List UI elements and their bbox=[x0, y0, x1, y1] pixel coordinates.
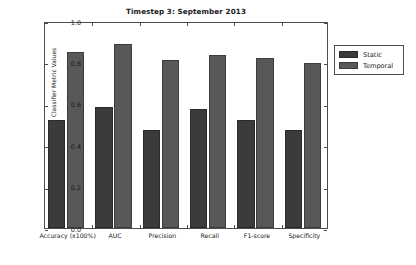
x-axis-tick-label: Recall bbox=[200, 232, 218, 239]
x-axis-tick-mark bbox=[234, 23, 235, 26]
bar-temporal-5 bbox=[304, 63, 322, 228]
plot-inner bbox=[45, 23, 327, 228]
x-axis-tick-mark bbox=[187, 23, 188, 26]
y-axis-tick-mark bbox=[324, 147, 327, 148]
legend-item-temporal[interactable]: Temporal bbox=[339, 60, 399, 71]
x-axis-tick-mark bbox=[187, 225, 188, 228]
bar-static-3 bbox=[190, 109, 208, 228]
y-axis-tick: 0.0 bbox=[45, 230, 89, 231]
y-axis-tick-mark bbox=[324, 230, 327, 231]
legend-label-static: Static bbox=[363, 51, 382, 59]
y-axis-tick-mark bbox=[324, 106, 327, 107]
bar-static-4 bbox=[237, 120, 255, 228]
x-axis-tick-label: Accuracy (x100%) bbox=[39, 232, 95, 239]
y-axis-tick: 0.8 bbox=[45, 64, 89, 65]
x-axis-tick-mark bbox=[140, 23, 141, 26]
y-axis-tick: 0.2 bbox=[45, 189, 89, 190]
bar-static-5 bbox=[285, 130, 303, 228]
y-axis-tick-mark bbox=[324, 189, 327, 190]
bar-temporal-0 bbox=[67, 52, 85, 228]
y-axis-tick-label: 0.6 bbox=[71, 101, 81, 109]
legend-swatch-static-icon bbox=[339, 51, 358, 58]
x-axis-tick-mark bbox=[234, 225, 235, 228]
x-axis-tick-mark bbox=[92, 23, 93, 26]
bar-temporal-2 bbox=[162, 60, 180, 228]
bar-temporal-1 bbox=[114, 44, 132, 228]
y-axis-tick-label: 0.2 bbox=[71, 184, 81, 192]
y-axis-tick: 1.0 bbox=[45, 23, 89, 24]
x-axis-tick-mark bbox=[282, 225, 283, 228]
y-axis-tick-mark bbox=[324, 64, 327, 65]
bar-static-2 bbox=[143, 130, 161, 228]
legend-label-temporal: Temporal bbox=[363, 62, 393, 70]
bar-static-1 bbox=[95, 107, 113, 228]
x-axis-tick-mark bbox=[140, 225, 141, 228]
plot-area: Classifier Metric Values 0.00.20.40.60.8… bbox=[44, 22, 328, 229]
x-axis-tick-label: F1-score bbox=[244, 232, 270, 239]
x-axis-tick-label: Specificity bbox=[288, 232, 320, 239]
chart-legend: Static Temporal bbox=[334, 45, 404, 75]
chart-figure: Timestep 3: September 2013 Classifier Me… bbox=[0, 0, 416, 265]
x-axis-tick-label: AUC bbox=[108, 232, 121, 239]
bar-temporal-3 bbox=[209, 55, 227, 228]
legend-swatch-temporal-icon bbox=[339, 62, 358, 69]
y-axis-tick-mark bbox=[324, 23, 327, 24]
y-axis-tick-label: 0.4 bbox=[71, 143, 81, 151]
y-axis-label: Classifier Metric Values bbox=[50, 23, 57, 143]
y-axis-tick: 0.6 bbox=[45, 106, 89, 107]
y-axis-tick-label: 1.0 bbox=[71, 19, 81, 27]
bar-temporal-4 bbox=[256, 58, 274, 228]
chart-title: Timestep 3: September 2013 bbox=[44, 7, 328, 16]
x-axis-tick-mark bbox=[282, 23, 283, 26]
x-axis-tick-label: Precision bbox=[149, 232, 177, 239]
y-axis-tick-label: 0.8 bbox=[71, 60, 81, 68]
y-axis-tick: 0.4 bbox=[45, 147, 89, 148]
legend-item-static[interactable]: Static bbox=[339, 49, 399, 60]
x-axis-tick-mark bbox=[92, 225, 93, 228]
